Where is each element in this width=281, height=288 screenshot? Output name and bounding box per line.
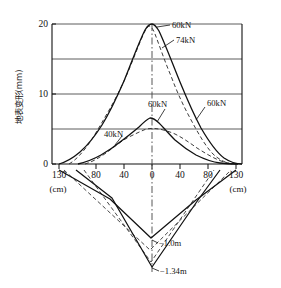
x-tick-label-m80: 80 xyxy=(91,170,101,180)
label-depth-1-0m: −1.0m xyxy=(159,238,182,248)
y-tick-label-10: 10 xyxy=(39,89,49,99)
label-74kn-top: 74kN xyxy=(176,35,196,45)
x-tick-label-m130: 130 xyxy=(52,170,67,180)
label-60kn-top: 60kN xyxy=(172,20,192,30)
x-tick-label-m40: 40 xyxy=(119,170,129,180)
x-tick-label-p130: 130 xyxy=(229,170,244,180)
chart-background xyxy=(0,0,281,288)
label-depth-1-34m: −1.34m xyxy=(160,266,187,276)
x-unit-label-left: (cm) xyxy=(50,184,67,194)
y-tick-label-0: 0 xyxy=(43,159,48,169)
y-tick-label-20: 20 xyxy=(39,19,49,29)
y-axis-title: 地表变形(mm) xyxy=(14,70,24,125)
deformation-chart-figure: 地表变形(mm) 20 10 0 130 80 40 0 40 80 130 (… xyxy=(0,0,281,288)
label-40kn-left: 40kN xyxy=(104,129,124,139)
chart-svg: 地表变形(mm) 20 10 0 130 80 40 0 40 80 130 (… xyxy=(0,0,281,288)
x-tick-label-p40: 40 xyxy=(175,170,185,180)
label-60kn-mid-right: 60kN xyxy=(207,98,227,108)
label-60kn-mid-left: 60kN xyxy=(148,99,168,109)
x-unit-label-right: (cm) xyxy=(230,184,247,194)
